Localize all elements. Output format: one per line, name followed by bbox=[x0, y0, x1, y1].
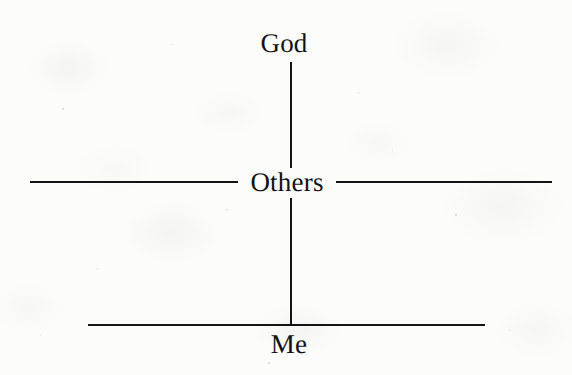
rule-others-right bbox=[336, 181, 552, 183]
scan-speck bbox=[455, 214, 457, 216]
scan-speck bbox=[358, 92, 359, 94]
rule-me bbox=[88, 324, 485, 326]
scan-speck bbox=[392, 150, 393, 151]
node-others-label: Others bbox=[250, 169, 323, 196]
rule-others-left bbox=[30, 181, 238, 183]
node-god-label: God bbox=[260, 30, 307, 57]
node-me-label: Me bbox=[271, 331, 307, 358]
scan-speck bbox=[40, 335, 41, 336]
scan-speck bbox=[62, 108, 64, 110]
scan-speck bbox=[226, 209, 228, 210]
scan-speck bbox=[97, 268, 98, 270]
connector-god-others bbox=[290, 62, 292, 168]
scan-speck bbox=[509, 330, 511, 331]
scan-speck bbox=[171, 44, 173, 45]
connector-others-me bbox=[290, 198, 292, 326]
diagram-canvas: God Others Me bbox=[0, 0, 572, 375]
scan-speck bbox=[268, 362, 270, 364]
